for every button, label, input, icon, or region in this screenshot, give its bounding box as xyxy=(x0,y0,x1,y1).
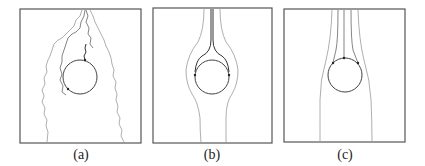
panel-b-contact-right xyxy=(228,74,230,76)
caption-b: (b) xyxy=(204,147,220,163)
panel-b-obstacle xyxy=(195,60,229,94)
panel-b-contact-left xyxy=(194,74,196,76)
panel-c-contact-left xyxy=(332,62,334,64)
panel-c xyxy=(284,9,405,142)
panel-a-core-path xyxy=(84,44,86,60)
figure-canvas xyxy=(0,0,425,166)
panel-a-frame xyxy=(20,9,141,143)
panel-a xyxy=(20,9,141,143)
panel-c-contact-top xyxy=(343,57,345,59)
panel-c-stream-right xyxy=(351,10,358,63)
panel-c-contact-right xyxy=(357,62,359,64)
panel-a-inner-right-path xyxy=(86,10,93,48)
panel-c-outer-right xyxy=(358,10,372,142)
panel-a-contact-top xyxy=(84,59,86,61)
panel-c-stream-left xyxy=(333,10,338,63)
caption-a: (a) xyxy=(73,147,89,163)
panel-a-outer-left-path xyxy=(42,10,82,142)
panel-c-frame xyxy=(284,9,405,142)
caption-c: (c) xyxy=(337,147,353,163)
panel-b-central-stream xyxy=(195,9,229,72)
panel-a-contact-lower-left xyxy=(67,88,69,90)
panel-c-outer-left xyxy=(320,10,332,142)
panel-a-outer-right-path xyxy=(90,10,124,142)
panel-b xyxy=(153,8,272,143)
